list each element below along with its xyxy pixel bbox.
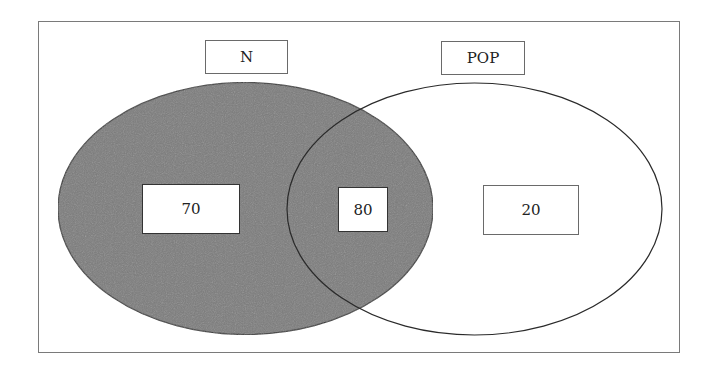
venn-diagram — [0, 0, 721, 369]
region-n-only-value: 70 — [142, 184, 240, 234]
set-label-n: N — [205, 40, 288, 74]
region-pop-only-value: 20 — [483, 185, 579, 235]
region-pop-only-text: 20 — [521, 201, 540, 219]
region-intersection-value: 80 — [338, 187, 388, 232]
set-label-n-text: N — [240, 48, 253, 66]
region-intersection-text: 80 — [353, 201, 372, 219]
set-label-pop-text: POP — [467, 49, 499, 67]
set-label-pop: POP — [441, 41, 525, 75]
region-n-only-text: 70 — [181, 200, 200, 218]
